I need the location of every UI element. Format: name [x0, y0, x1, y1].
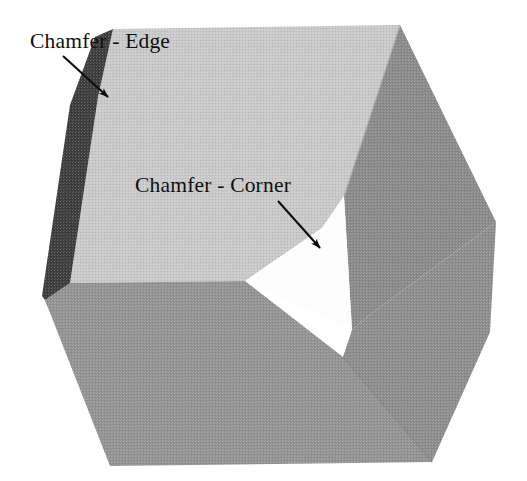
chamfer-edge-label: Chamfer - Edge: [30, 29, 170, 53]
figure-canvas: Chamfer - Edge Chamfer - Corner: [0, 0, 527, 481]
chamfered-solid-illustration: Chamfer - Edge Chamfer - Corner: [0, 0, 527, 481]
halftone-texture-overlay: [42, 25, 496, 466]
chamfer-corner-label: Chamfer - Corner: [135, 173, 291, 197]
